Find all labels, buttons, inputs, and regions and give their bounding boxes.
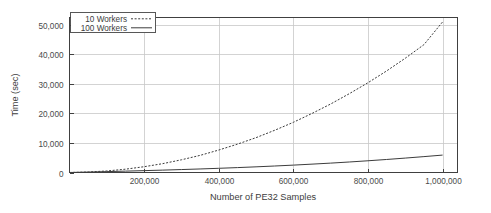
y-axis-title-group: Time (sec) bbox=[10, 73, 20, 116]
line-chart-svg: 010,00020,00030,00040,00050,000 200,0004… bbox=[0, 0, 491, 213]
y-tick-label: 20,000 bbox=[38, 110, 63, 119]
chart-figure: 010,00020,00030,00040,00050,000 200,0004… bbox=[0, 0, 491, 213]
legend-label-10-workers: 10 Workers bbox=[85, 15, 127, 24]
x-tick-label: 400,000 bbox=[205, 177, 235, 186]
y-tick-label: 50,000 bbox=[38, 22, 63, 31]
gridlines-vertical bbox=[145, 18, 444, 173]
chart-legend: 10 Workers 100 Workers bbox=[71, 13, 156, 33]
plot-border bbox=[70, 18, 458, 173]
x-axis-ticks: 200,000400,000600,000800,0001,000,000 bbox=[130, 169, 462, 186]
y-tick-label: 10,000 bbox=[38, 140, 63, 149]
y-tick-label: 40,000 bbox=[38, 51, 63, 60]
x-tick-label: 200,000 bbox=[130, 177, 160, 186]
y-axis-ticks: 010,00020,00030,00040,00050,000 bbox=[38, 22, 73, 179]
plot-frame bbox=[70, 18, 458, 173]
x-tick-label: 1,000,000 bbox=[425, 177, 462, 186]
x-tick-label: 600,000 bbox=[279, 177, 309, 186]
legend-label-100-workers: 100 Workers bbox=[81, 24, 127, 33]
x-axis-title: Number of PE32 Samples bbox=[210, 192, 317, 202]
series-group bbox=[70, 22, 443, 173]
y-tick-label: 30,000 bbox=[38, 81, 63, 90]
series-line-100-workers bbox=[70, 155, 443, 172]
x-tick-label: 800,000 bbox=[354, 177, 384, 186]
y-axis-title: Time (sec) bbox=[10, 73, 20, 116]
gridlines-horizontal bbox=[70, 26, 458, 144]
series-line-10-workers bbox=[70, 22, 443, 173]
y-tick-label: 0 bbox=[59, 170, 64, 179]
